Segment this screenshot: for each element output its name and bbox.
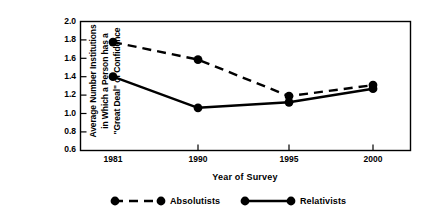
x-axis-tickmarks (198, 145, 373, 151)
data-point-relativists-1995 (285, 98, 294, 107)
y-axis-tickmarks (81, 40, 87, 132)
x-tick-label-2000: 2000 (353, 155, 393, 164)
data-point-relativists-1990 (194, 103, 203, 112)
data-point-absolutists-1990 (194, 55, 203, 64)
legend-item-relativists: Relativists (240, 190, 346, 212)
legend-swatch-solid-icon (240, 194, 296, 208)
x-tick-label-1981: 1981 (93, 155, 133, 164)
data-point-relativists-1981 (109, 72, 118, 81)
chart-legend: Absolutists Relativists (80, 190, 410, 212)
chart-figure: Average Number Institutions in Which a P… (0, 0, 424, 215)
series-relativists-line (113, 77, 373, 108)
x-tick-label-1990: 1990 (178, 155, 218, 164)
series-absolutists-line (113, 42, 373, 96)
legend-item-absolutists: Absolutists (110, 190, 220, 212)
x-axis-title: Year of Survey (80, 172, 410, 182)
legend-swatch-dashed-icon (110, 194, 166, 208)
data-point-relativists-2000 (369, 84, 378, 93)
chart-canvas (0, 0, 424, 215)
x-tick-label-1995: 1995 (269, 155, 309, 164)
legend-label-absolutists: Absolutists (170, 196, 220, 206)
legend-label-relativists: Relativists (300, 196, 346, 206)
data-point-absolutists-1981 (109, 38, 118, 47)
